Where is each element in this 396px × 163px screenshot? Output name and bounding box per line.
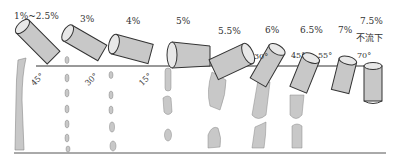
stage-9-flow [364,63,382,104]
diagram-canvas [0,0,396,163]
angle-label-8: 55° [318,52,332,60]
stage-8-flow [331,54,357,93]
stage-2-flow [59,23,107,152]
concentration-label-9: 7.5% [360,17,383,26]
stage-4-flow [163,42,210,141]
concentration-label-4: 5% [176,17,190,26]
angle-label-6: 30° [254,53,268,61]
concentration-label-2: 3% [80,15,94,24]
concentration-label-3: 4% [126,17,140,26]
stage-3-flow [106,33,153,151]
angle-label-7: 45° [291,52,305,60]
no-flow-note: 不流下 [356,34,383,43]
stage-5-flow [208,41,257,148]
stage-7-flow [290,51,321,148]
concentration-label-1: 1%~2.5% [14,12,59,21]
concentration-label-5: 5.5% [218,27,241,36]
concentration-label-7: 6.5% [300,26,323,35]
angle-label-9: 70° [357,52,371,60]
concentration-label-6: 6% [265,26,279,35]
concentration-label-8: 7% [338,26,352,35]
